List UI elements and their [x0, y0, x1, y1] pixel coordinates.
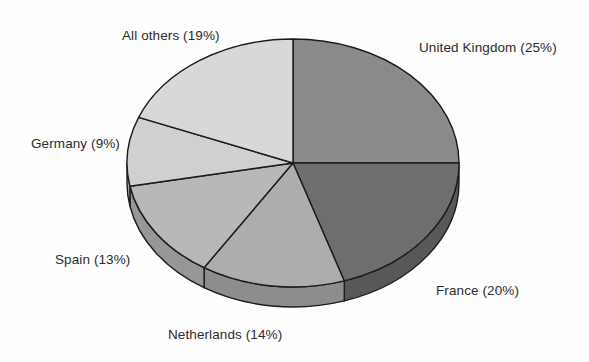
pie-label-france: France (20%): [436, 284, 519, 298]
pie-label-netherlands: Netherlands (14%): [168, 328, 282, 342]
pie-slice-united-kingdom[interactable]: [293, 39, 459, 163]
pie-label-spain: Spain (13%): [55, 253, 130, 267]
pie-tops-group: [127, 39, 459, 287]
pie-label-germany: Germany (9%): [31, 137, 120, 151]
pie-label-all-others: All others (19%): [122, 29, 220, 43]
pie-label-united-kingdom: United Kingdom (25%): [419, 41, 557, 55]
pie-chart-screenshot: United Kingdom (25%) France (20%) Nether…: [0, 0, 589, 362]
